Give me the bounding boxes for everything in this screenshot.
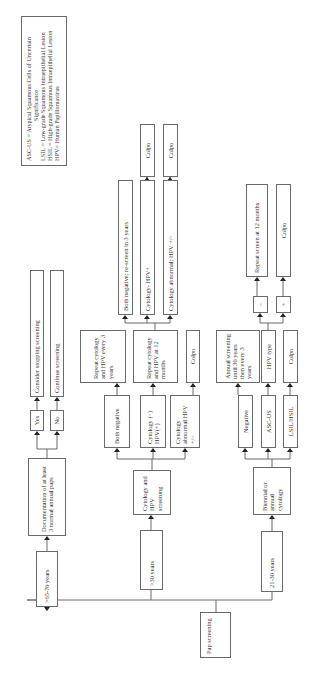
continue-screening-box: Continue screening — [50, 270, 64, 397]
negative-label: Negative — [242, 410, 249, 433]
age-30-label: >30 years — [148, 561, 155, 586]
cytology-abnormal-followup-box: Cytology abnormal; HPV +/− — [163, 180, 178, 315]
flowchart-canvas: Pap screening >65-70 years Documentation… — [0, 0, 315, 681]
repeat-at-12-months-box: Repeat cytology and HPV at 12 months — [133, 330, 178, 383]
legend-line-ascus: ASC-US = Atypical Squamous Cells of Unce… — [25, 21, 32, 161]
hpv-negative-box: − — [253, 296, 268, 313]
biennial-annual-cytology-box: Biennial or annual cytology — [253, 467, 291, 515]
colpo-box-b: Colpo — [140, 124, 155, 177]
no-box: No — [50, 410, 64, 431]
cytology-abnormal-label: Cytology abnormal HPV +/− — [174, 399, 196, 444]
lsil-hsil-label: LSIL/HSIL — [287, 407, 294, 436]
colpo-box-d: Colpo — [283, 330, 298, 383]
age-30-box: >30 years — [140, 530, 163, 590]
both-negative-label: Both negative — [113, 408, 120, 444]
cytology-abnormal-box: Cytology abnormal HPV +/− — [170, 395, 200, 448]
repeat-every-3-years-box: Repeat cytology and HPV every 3 years — [80, 330, 126, 383]
no-label: No — [53, 417, 60, 425]
repeat-screen-12-months-box: Repeat screen at 12 months — [246, 184, 268, 277]
asc-us-label: ASC-US — [265, 410, 272, 433]
legend-line-significance: Significance — [32, 21, 39, 161]
cytology-hpv-screening-label: Cytology and HPV screening — [141, 474, 163, 511]
cytology-neg-hpv-pos-label: Cytology (−) HPV(+) — [146, 399, 160, 444]
repeat-at-12-months-label: Repeat cytology and HPV at 12 months — [145, 334, 167, 379]
biennial-annual-cytology-label: Biennial or annual cytology — [261, 471, 283, 511]
yes-box: Yes — [30, 410, 44, 431]
hpv-positive-box: + — [276, 296, 291, 313]
repeat-every-3-years-label: Repeat cytology and HPV every 3 years — [92, 334, 114, 379]
pap-screening-label: Pap screening — [205, 618, 212, 654]
cytology-hpv-screening-box: Cytology and HPV screening — [133, 470, 171, 515]
cytology-hpv-pos-label: Cytology- HPV+ — [144, 267, 151, 311]
legend-line-hsil: HSIL = High-grade Squamous Intraepitheli… — [46, 21, 53, 161]
legend-line-lsil: LSIL = Low-grade Squamous Intraepithelia… — [39, 21, 46, 161]
annual-screening-label: Annual screening until 30 years then eve… — [224, 334, 253, 379]
asc-us-box: ASC-US — [261, 395, 276, 448]
colpo-box-c: Colpo — [163, 124, 178, 177]
legend-line-hpv: HPV= Human Papillomavirus — [53, 21, 60, 161]
both-negative-rescreen-label: Both negative; re-screen in 3 years — [122, 222, 129, 311]
abbreviation-legend: ASC-US = Atypical Squamous Cells of Unce… — [21, 16, 67, 166]
hpv-positive-label: + — [280, 303, 287, 307]
colpo-label-c: Colpo — [167, 143, 174, 159]
cytology-abnormal-followup-label: Cytology abnormal; HPV +/− — [167, 235, 174, 311]
hpv-type-box: HPV type — [261, 330, 276, 383]
age-65-70-label: >65-70 years — [43, 569, 50, 603]
colpo-label-b: Colpo — [144, 143, 151, 159]
hpv-type-label: HPV type — [265, 344, 272, 369]
yes-label: Yes — [33, 416, 40, 425]
consider-stopping-label: Consider stopping screening — [33, 320, 40, 393]
pap-screening-box: Pap screening — [200, 612, 231, 658]
cytology-neg-hpv-pos-box: Cytology (−) HPV(+) — [140, 395, 166, 448]
annual-screening-box: Annual screening until 30 years then eve… — [216, 330, 260, 383]
repeat-screen-12-months-label: Repeat screen at 12 months — [253, 203, 260, 273]
both-negative-box: Both negative — [104, 395, 130, 448]
documentation-3-paps-label: Documentation of at least 3 normal annua… — [40, 462, 54, 532]
colpo-label-d: Colpo — [287, 349, 294, 365]
colpo-box-a: Colpo — [186, 330, 200, 383]
colpo-label-e: Colpo — [280, 223, 287, 239]
age-21-30-box: 21-30 years — [261, 531, 283, 592]
colpo-box-e: Colpo — [276, 184, 291, 277]
negative-box: Negative — [238, 395, 253, 448]
both-negative-rescreen-box: Both negative; re-screen in 3 years — [118, 180, 133, 315]
cytology-hpv-pos-box: Cytology- HPV+ — [140, 180, 155, 315]
documentation-3-paps-box: Documentation of at least 3 normal annua… — [28, 458, 66, 536]
age-65-70-box: >65-70 years — [36, 551, 58, 607]
continue-screening-label: Continue screening — [53, 343, 60, 393]
lsil-hsil-box: LSIL/HSIL — [283, 395, 298, 448]
colpo-label-a: Colpo — [189, 349, 196, 365]
consider-stopping-box: Consider stopping screening — [30, 270, 44, 397]
age-21-30-label: 21-30 years — [268, 558, 275, 588]
hpv-negative-label: − — [257, 303, 264, 307]
